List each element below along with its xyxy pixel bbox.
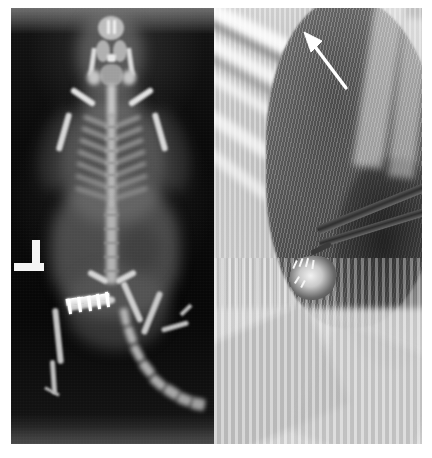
- arrow-annotation-icon: [300, 30, 360, 94]
- radiograph-grain-overlay: [11, 8, 214, 444]
- figure-container: [0, 0, 432, 458]
- panel-intraoperative-photograph: [214, 8, 422, 444]
- panel-radiograph: [11, 8, 214, 444]
